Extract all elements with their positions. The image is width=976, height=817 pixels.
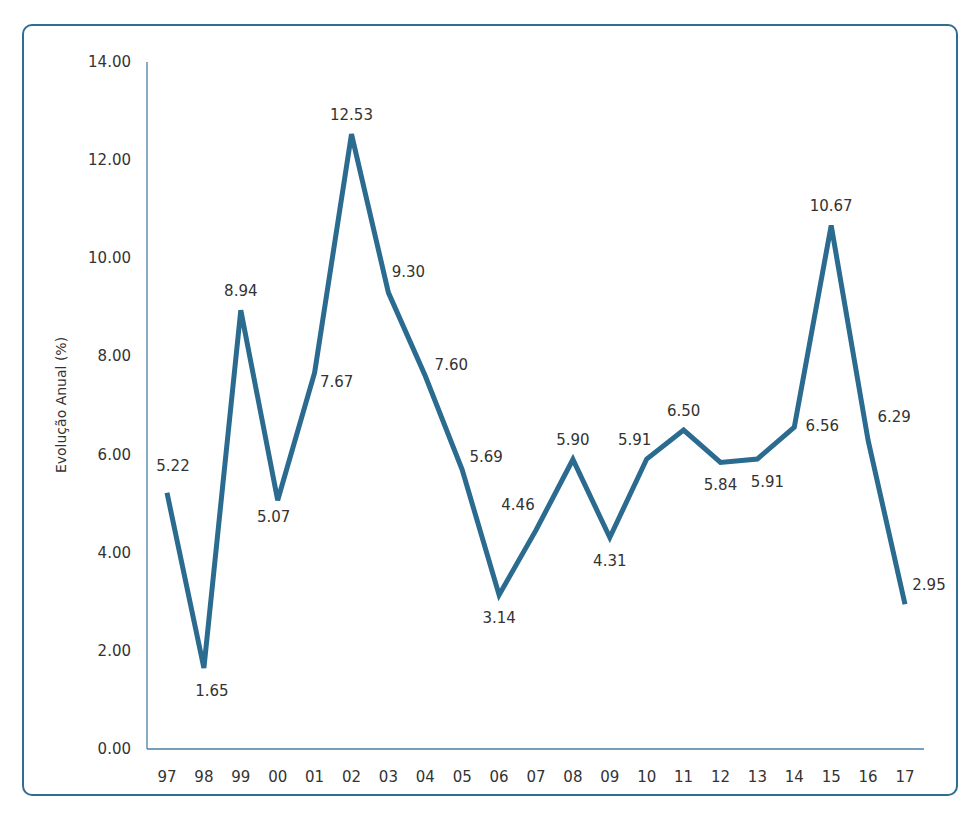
x-tick-label: 12 [711,768,730,786]
x-tick-label: 06 [490,768,509,786]
data-label: 5.91 [751,473,784,491]
x-tick-label: 14 [785,768,804,786]
x-axis: 9798990001020304050607080910111213141516… [147,749,924,786]
x-tick-label: 05 [453,768,472,786]
data-label: 10.67 [810,197,853,215]
x-tick-label: 03 [379,768,398,786]
y-tick-label: 12.00 [88,151,131,169]
x-tick-label: 04 [416,768,435,786]
y-axis: 0.002.004.006.008.0010.0012.0014.00 [88,53,147,758]
x-tick-label: 10 [637,768,656,786]
y-tick-label: 8.00 [98,347,131,365]
data-label: 5.07 [257,508,290,526]
data-label: 4.31 [593,552,626,570]
data-label: 7.67 [320,373,353,391]
x-tick-label: 17 [895,768,914,786]
data-label: 5.69 [469,448,502,466]
data-label: 8.94 [224,282,257,300]
x-tick-label: 15 [822,768,841,786]
data-label: 4.46 [501,496,534,514]
data-label: 6.50 [667,402,700,420]
y-tick-label: 4.00 [98,544,131,562]
line-chart: 0.002.004.006.008.0010.0012.0014.00 9798… [0,0,976,817]
data-label: 9.30 [392,263,425,281]
data-label: 5.22 [156,457,189,475]
x-tick-label: 01 [305,768,324,786]
y-tick-label: 6.00 [98,446,131,464]
data-label: 12.53 [330,106,373,124]
y-tick-label: 14.00 [88,53,131,71]
x-tick-label: 00 [268,768,287,786]
series-line [167,134,905,668]
y-axis-label: Evolução Anual (%) [53,337,69,473]
data-label: 6.29 [877,408,910,426]
x-tick-label: 98 [194,768,213,786]
y-tick-label: 0.00 [98,740,131,758]
data-labels: 5.221.658.945.077.6712.539.307.605.693.1… [156,106,945,700]
x-tick-label: 16 [859,768,878,786]
x-tick-label: 09 [600,768,619,786]
data-label: 6.56 [806,417,839,435]
y-tick-label: 10.00 [88,249,131,267]
data-label: 5.91 [618,431,651,449]
data-label: 5.90 [556,431,589,449]
x-tick-label: 97 [157,768,176,786]
y-tick-label: 2.00 [98,642,131,660]
data-label: 2.95 [912,576,945,594]
data-label: 3.14 [482,609,515,627]
x-tick-label: 08 [563,768,582,786]
x-tick-label: 07 [526,768,545,786]
x-tick-label: 13 [748,768,767,786]
x-tick-label: 02 [342,768,361,786]
data-label: 1.65 [195,682,228,700]
data-label: 5.84 [704,476,737,494]
x-tick-label: 11 [674,768,693,786]
x-tick-label: 99 [231,768,250,786]
data-label: 7.60 [435,356,468,374]
